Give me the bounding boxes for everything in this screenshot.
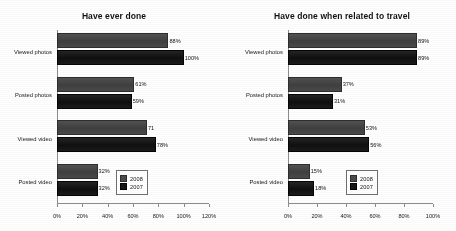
bar-value-label: 31% — [334, 98, 345, 104]
category-band: Posted photos37%31% — [288, 74, 433, 118]
bar-2008: 15% — [288, 164, 310, 179]
chart-title: Have ever done — [0, 11, 228, 21]
bar-2007: 89% — [288, 50, 417, 65]
bar-2007: 59% — [57, 94, 132, 109]
category-label: Viewed photos — [245, 49, 283, 55]
x-axis-tick — [404, 204, 405, 207]
x-axis-tick-label: 0% — [53, 213, 61, 219]
bar-value-label: 53% — [366, 125, 377, 131]
category-label: Posted photos — [15, 92, 52, 98]
x-axis-tick-label: 100% — [177, 213, 191, 219]
legend-item-2007: 2007 — [350, 183, 373, 190]
bar-2008: 89% — [288, 33, 417, 48]
chart-title: Have done when related to travel — [228, 11, 456, 21]
legend-swatch-2008 — [350, 175, 357, 182]
bar-value-label: 56% — [370, 142, 381, 148]
x-axis-tick-label: 0% — [284, 213, 292, 219]
x-axis-tick-label: 120% — [202, 213, 216, 219]
x-axis-tick — [209, 204, 210, 207]
bar-value-label: 15% — [311, 168, 322, 174]
category-band: Viewed video53%56% — [288, 117, 433, 161]
legend-item-2008: 2008 — [120, 175, 143, 182]
legend-right: 2008 2007 — [346, 170, 378, 195]
x-axis-tick-label: 20% — [77, 213, 88, 219]
x-axis-tick — [317, 204, 318, 207]
bar-value-label: 89% — [418, 38, 429, 44]
legend-label-2008: 2008 — [130, 176, 143, 182]
x-axis-tick — [288, 204, 289, 207]
bar-value-label: 100% — [185, 55, 199, 61]
legend-item-2008: 2008 — [350, 175, 373, 182]
bar-value-label: 89% — [418, 55, 429, 61]
x-axis-tick-label: 20% — [311, 213, 322, 219]
category-label: Viewed video — [249, 136, 283, 142]
bar-2007: 100% — [57, 50, 184, 65]
bar-value-label: 32% — [99, 185, 110, 191]
x-axis-tick — [184, 204, 185, 207]
bar-2007: 18% — [288, 181, 314, 196]
bar-2008: 32% — [57, 164, 98, 179]
bar-value-label: 71 — [148, 125, 154, 131]
x-axis-tick — [433, 204, 434, 207]
category-label: Posted video — [18, 179, 52, 185]
bar-value-label: 18% — [315, 185, 326, 191]
bar-2008: 37% — [288, 77, 342, 92]
legend-left: 2008 2007 — [116, 170, 148, 195]
category-band: Posted photos61%59% — [57, 74, 209, 118]
chart-panel-have-done-when-related-to-travel: Have done when related to travel 0%20%40… — [228, 0, 456, 231]
bar-value-label: 88% — [169, 38, 180, 44]
bar-2007: 32% — [57, 181, 98, 196]
bar-2008: 53% — [288, 120, 365, 135]
x-axis-tick — [82, 204, 83, 207]
legend-label-2007: 2007 — [360, 184, 373, 190]
category-band: Viewed photos89%89% — [288, 30, 433, 74]
bar-2008: 71 — [57, 120, 147, 135]
bar-2007: 78% — [57, 137, 156, 152]
category-band: Viewed photos88%100% — [57, 30, 209, 74]
x-axis-tick — [108, 204, 109, 207]
x-axis-tick — [133, 204, 134, 207]
x-axis-tick-label: 60% — [127, 213, 138, 219]
legend-swatch-2007 — [120, 183, 127, 190]
bar-value-label: 37% — [343, 81, 354, 87]
legend-item-2007: 2007 — [120, 183, 143, 190]
category-label: Posted photos — [246, 92, 283, 98]
legend-label-2007: 2007 — [130, 184, 143, 190]
x-axis-tick — [375, 204, 376, 207]
category-label: Posted video — [249, 179, 283, 185]
legend-label-2008: 2008 — [360, 176, 373, 182]
x-axis-tick — [158, 204, 159, 207]
category-label: Viewed video — [18, 136, 52, 142]
x-axis-tick-label: 40% — [102, 213, 113, 219]
x-axis-tick-label: 80% — [153, 213, 164, 219]
x-axis-tick-label: 40% — [340, 213, 351, 219]
bar-value-label: 32% — [99, 168, 110, 174]
bar-value-label: 59% — [133, 98, 144, 104]
x-axis-tick-label: 60% — [369, 213, 380, 219]
legend-swatch-2008 — [120, 175, 127, 182]
bar-value-label: 78% — [157, 142, 168, 148]
chart-page: Have ever done 0%20%40%60%80%100%120%Vie… — [0, 0, 456, 231]
bar-value-label: 61% — [135, 81, 146, 87]
category-label: Viewed photos — [14, 49, 52, 55]
legend-swatch-2007 — [350, 183, 357, 190]
x-axis-tick-label: 100% — [426, 213, 440, 219]
x-axis-tick — [57, 204, 58, 207]
chart-panel-have-ever-done: Have ever done 0%20%40%60%80%100%120%Vie… — [0, 0, 228, 231]
x-axis-tick-label: 80% — [398, 213, 409, 219]
bar-2007: 31% — [288, 94, 333, 109]
x-axis-tick — [346, 204, 347, 207]
bar-2007: 56% — [288, 137, 369, 152]
category-band: Viewed video7178% — [57, 117, 209, 161]
bar-2008: 88% — [57, 33, 168, 48]
bar-2008: 61% — [57, 77, 134, 92]
